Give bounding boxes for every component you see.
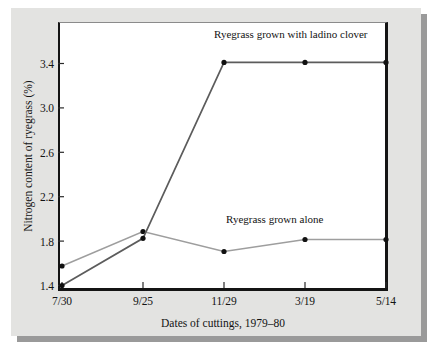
- data-point: [59, 283, 64, 288]
- data-point: [383, 237, 388, 242]
- data-point: [383, 60, 388, 65]
- data-point: [140, 236, 145, 241]
- figure-root: 1.4 1.8 2.2 2.6 3.0 3.4 7/30 9/25 11/29 …: [0, 0, 435, 358]
- data-point: [221, 249, 226, 254]
- y-tick-marks: [58, 64, 64, 286]
- data-point: [59, 263, 64, 268]
- line-path-alone: [62, 232, 386, 267]
- series-line-alone: [59, 229, 388, 269]
- data-point: [221, 60, 226, 65]
- data-point: [302, 60, 307, 65]
- data-point: [302, 237, 307, 242]
- x-tick-marks: [62, 282, 386, 288]
- chart-svg: [0, 0, 435, 358]
